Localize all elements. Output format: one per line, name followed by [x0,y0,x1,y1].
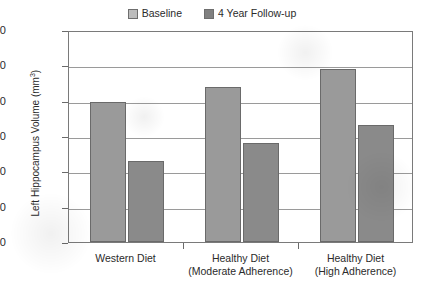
legend-swatch-baseline [128,9,138,19]
bar [320,69,356,242]
y-axis-title-text: Left Hippocampus Volume (mm [30,77,41,217]
y-tick-label: 2200 [0,202,6,213]
bar [243,143,279,242]
y-axis-title-superscript: 3 [29,73,36,77]
y-tick-mark [62,243,68,244]
legend-item-followup: 4 Year Follow-up [204,8,296,19]
x-axis-label: Western Diet [68,252,183,265]
y-tick-label: 2400 [0,166,6,177]
x-axis-label-line: Western Diet [68,252,183,265]
legend-label-baseline: Baseline [142,8,182,19]
chart-legend: Baseline 4 Year Follow-up [0,8,424,19]
x-tick-mark [183,243,184,249]
x-axis-label-line: (High Adherence) [298,265,413,278]
plot-area [68,31,413,243]
bar [128,161,164,242]
legend-item-baseline: Baseline [128,8,182,19]
y-axis-title-paren: ) [30,70,41,73]
y-tick-label: 3200 [0,25,6,36]
y-tick-label: 2000 [0,237,6,248]
y-tick-label: 2800 [0,96,6,107]
x-axis-label: Healthy Diet(High Adherence) [298,252,413,277]
y-tick-label: 2600 [0,131,6,142]
legend-label-followup: 4 Year Follow-up [218,8,296,19]
x-axis-label-line: Healthy Diet [298,252,413,265]
bar [358,125,394,242]
y-tick-label: 3000 [0,60,6,71]
x-axis-label: Healthy Diet(Moderate Adherence) [183,252,298,277]
bar-chart: Baseline 4 Year Follow-up Left Hippocamp… [0,0,424,292]
y-axis-title: Left Hippocampus Volume (mm3) [27,38,41,248]
x-tick-mark [298,243,299,249]
x-axis-label-line: (Moderate Adherence) [183,265,298,278]
legend-swatch-followup [204,9,214,19]
gridline [69,67,412,68]
bar [90,102,126,242]
x-axis-label-line: Healthy Diet [183,252,298,265]
bar [205,87,241,242]
